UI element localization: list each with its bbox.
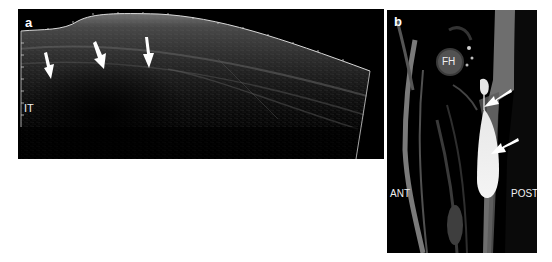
- mri-panel: b FH ANT POST: [387, 10, 537, 253]
- femoral-head-label: FH: [442, 57, 455, 67]
- posterior-label: POST: [511, 189, 537, 199]
- ultrasound-panel: a IT: [18, 9, 384, 159]
- mri-image: [387, 10, 537, 253]
- anterior-label: ANT: [390, 189, 410, 199]
- panel-letter-a: a: [25, 16, 32, 29]
- depth-marker-label: IT: [24, 103, 34, 114]
- panel-letter-b: b: [394, 15, 402, 28]
- ultrasound-image: [18, 9, 384, 159]
